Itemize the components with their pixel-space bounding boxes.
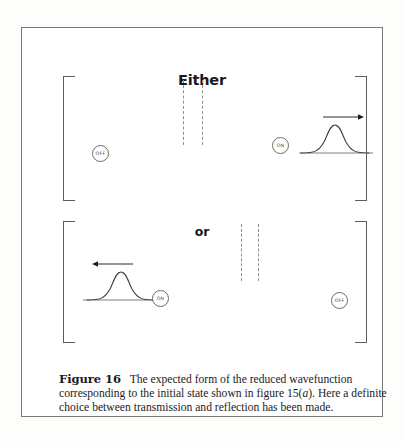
either-bracket: OFF ON	[63, 76, 367, 201]
barrier-or	[241, 224, 259, 281]
or-panel: ON OFF	[63, 221, 367, 343]
arrow-right-icon	[323, 114, 364, 120]
figure-caption-label: Figure 16	[59, 372, 121, 386]
gaussian-curve	[301, 125, 369, 153]
barrier-either	[183, 80, 203, 145]
or-bracket: ON OFF	[63, 221, 367, 343]
detector-either-right: ON	[272, 137, 289, 154]
detector-either-left: OFF	[92, 145, 109, 162]
barrier-slit-line-2	[258, 224, 259, 281]
figure-frame: Either OFF ON	[21, 27, 383, 417]
barrier-slit-line-1	[241, 224, 242, 281]
figure-page: Either OFF ON	[0, 0, 405, 442]
either-panel: OFF ON	[63, 76, 367, 201]
barrier-slit-line-2	[202, 80, 203, 145]
wave-packet-reflected	[81, 261, 159, 307]
barrier-slit-line-1	[183, 80, 184, 145]
detector-or-right: OFF	[331, 292, 348, 309]
detector-or-left: ON	[152, 290, 169, 307]
figure-caption: Figure 16 The expected form of the reduc…	[59, 372, 387, 416]
gaussian-curve	[87, 272, 155, 300]
arrow-left-icon	[92, 261, 133, 267]
figure-caption-gap	[121, 373, 130, 386]
wave-packet-transmitted	[297, 114, 375, 160]
